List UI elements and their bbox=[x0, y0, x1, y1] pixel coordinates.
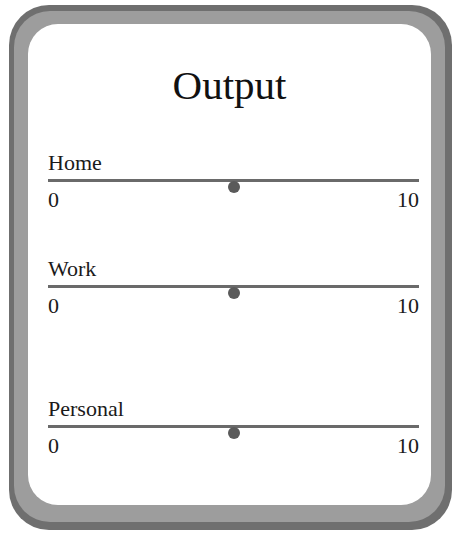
slider-work: Work 0 10 bbox=[48, 257, 419, 317]
output-panel: Output Home 0 10 Work 0 10 Personal 0 10 bbox=[28, 24, 431, 505]
slider-max-label-personal: 10 bbox=[397, 434, 419, 458]
slider-thumb-work[interactable] bbox=[228, 287, 240, 299]
slider-min-label-personal: 0 bbox=[48, 434, 59, 458]
slider-personal: Personal 0 10 bbox=[48, 397, 419, 457]
slider-thumb-personal[interactable] bbox=[228, 427, 240, 439]
slider-thumb-home[interactable] bbox=[228, 181, 240, 193]
slider-label-work: Work bbox=[48, 257, 96, 281]
panel-title: Output bbox=[28, 61, 431, 109]
slider-max-label-home: 10 bbox=[397, 188, 419, 212]
slider-max-label-work: 10 bbox=[397, 294, 419, 318]
slider-label-personal: Personal bbox=[48, 397, 124, 421]
slider-min-label-home: 0 bbox=[48, 188, 59, 212]
panel-frame: Output Home 0 10 Work 0 10 Personal 0 10 bbox=[9, 5, 452, 530]
slider-home: Home 0 10 bbox=[48, 151, 419, 211]
slider-label-home: Home bbox=[48, 151, 102, 175]
slider-min-label-work: 0 bbox=[48, 294, 59, 318]
